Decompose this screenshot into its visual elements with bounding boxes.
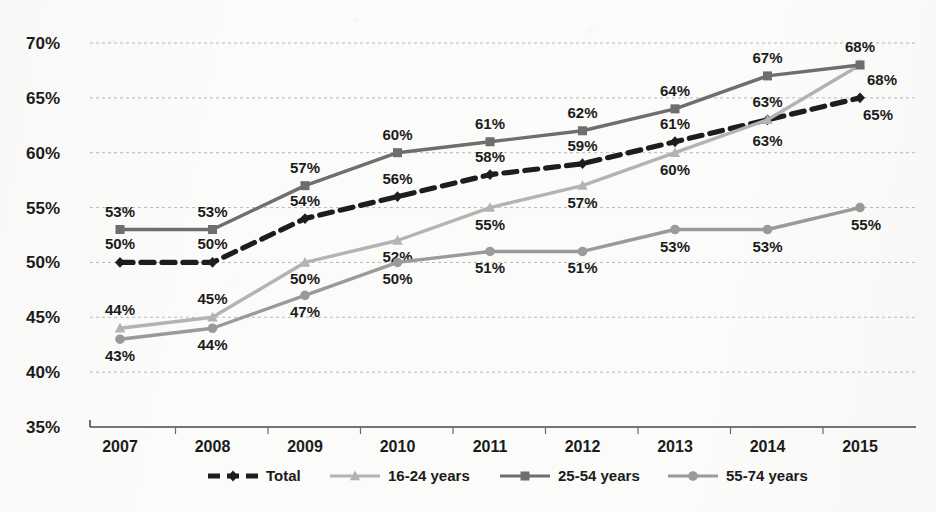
data-label-1-4: 55% [475,216,505,233]
data-label-2-0: 53% [105,203,135,220]
data-label-2-2: 57% [290,159,320,176]
marker-circle [485,247,495,257]
y-axis-label-55: 55% [26,199,60,218]
marker-square [208,225,217,234]
data-label-3-5: 51% [567,259,597,276]
data-label-3-6: 53% [660,238,690,255]
marker-square [486,137,495,146]
marker-square [116,225,125,234]
line-chart: 70%65%60%55%50%45%40%35%2007200820092010… [0,0,936,512]
x-axis-label-2015: 2015 [842,438,878,455]
data-label-1-5: 57% [567,194,597,211]
chart-canvas: 70%65%60%55%50%45%40%35%2007200820092010… [0,0,936,512]
data-label-3-7: 53% [752,238,782,255]
data-label-0-2: 54% [290,192,320,209]
marker-diamond [228,471,238,482]
marker-square [521,472,530,481]
data-label-2-7: 67% [752,49,782,66]
data-label-0-8: 65% [863,106,893,123]
x-axis-label-2012: 2012 [565,438,601,455]
x-axis-label-2011: 2011 [473,438,508,455]
data-label-3-0: 43% [105,347,135,364]
x-axis-label-2010: 2010 [380,438,416,455]
y-axis-label-65: 65% [26,89,60,108]
legend-label-3: 55-74 years [726,467,808,484]
data-label-1-8: 68% [867,71,897,88]
y-axis-label-60: 60% [26,144,60,163]
marker-square [856,60,865,69]
marker-circle [670,225,680,235]
x-axis-label-2008: 2008 [195,438,231,455]
x-axis-group: 200720082009201020112012201320142015 [90,420,916,455]
marker-circle [393,258,403,268]
data-label-3-1: 44% [197,336,227,353]
marker-circle [578,247,588,257]
data-label-0-6: 61% [660,115,690,132]
data-label-3-4: 51% [475,259,505,276]
data-label-2-1: 53% [197,203,227,220]
marker-square [301,181,310,190]
y-axis-label-70: 70% [26,34,60,53]
marker-circle [300,291,310,301]
marker-circle [115,334,125,344]
data-label-2-5: 62% [567,104,597,121]
x-axis-label-2009: 2009 [287,438,323,455]
marker-circle [855,203,865,213]
data-label-1-0: 44% [105,301,135,318]
marker-diamond [855,92,865,103]
legend-label-2: 25-54 years [558,467,640,484]
data-label-3-3: 50% [382,270,412,287]
marker-diamond [578,158,588,169]
data-label-0-4: 58% [475,148,505,165]
marker-square [763,71,772,80]
marker-circle [208,323,218,333]
data-label-2-6: 64% [660,82,690,99]
x-axis-label-2007: 2007 [102,438,138,455]
legend: Total16-24 years25-54 years55-74 years [208,467,808,484]
data-label-1-7: 63% [752,132,782,149]
data-label-1-6: 60% [660,161,690,178]
data-label-3-2: 47% [290,303,320,320]
y-axis-label-40: 40% [26,363,60,382]
legend-label-1: 16-24 years [388,467,470,484]
data-label-0-1: 50% [197,235,227,252]
marker-diamond [670,136,680,147]
marker-square [393,148,402,157]
data-label-2-8: 68% [845,38,875,55]
marker-diamond [485,169,495,180]
legend-item-55-74-years[interactable]: 55-74 years [668,467,808,484]
data-label-0-0: 50% [105,235,135,252]
marker-square [671,104,680,113]
series-line-1 [120,65,860,328]
data-label-0-3: 56% [382,170,412,187]
data-label-1-1: 45% [197,290,227,307]
legend-item-25-54-years[interactable]: 25-54 years [500,467,640,484]
data-label-3-8: 55% [851,216,881,233]
marker-circle [688,471,698,481]
legend-item-16-24-years[interactable]: 16-24 years [330,467,470,484]
y-axis-label-50: 50% [26,253,60,272]
data-label-2-3: 60% [382,126,412,143]
y-axis-label-45: 45% [26,308,60,327]
data-label-1-2: 50% [290,270,320,287]
marker-diamond [115,257,125,268]
marker-diamond [393,191,403,202]
data-label-0-5: 59% [567,137,597,154]
legend-item-total[interactable]: Total [208,467,301,484]
data-label-2-4: 61% [475,115,505,132]
marker-square [578,126,587,135]
x-axis-label-2013: 2013 [657,438,693,455]
marker-circle [763,225,773,235]
data-label-0-7: 63% [752,93,782,110]
legend-label-0: Total [266,467,301,484]
x-axis-label-2014: 2014 [750,438,786,455]
y-axis-label-35: 35% [26,418,60,437]
